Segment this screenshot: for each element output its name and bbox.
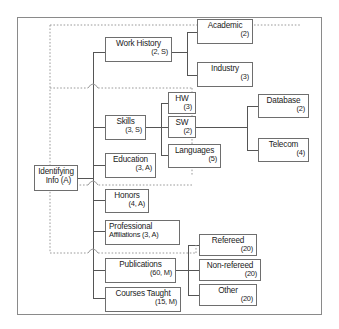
node-languages[interactable]: Languages (5) [168, 144, 221, 168]
node-courses-taught-sub: (15, M) [106, 298, 180, 306]
node-academic[interactable]: Academic (2) [197, 19, 253, 44]
node-skills[interactable]: Skills (3, S) [105, 115, 146, 140]
node-languages-sub: (5) [169, 155, 220, 163]
node-industry[interactable]: Industry (3) [197, 62, 253, 87]
node-non-refereed-sub: (20) [200, 270, 260, 278]
node-sw[interactable]: SW (2) [168, 116, 196, 138]
node-publications-sub: (60, M) [106, 269, 175, 277]
node-education[interactable]: Education (3, A) [105, 153, 156, 178]
node-other[interactable]: Other (20) [199, 284, 257, 306]
node-hw-sub: (3) [169, 103, 195, 111]
node-other-sub: (20) [200, 295, 256, 303]
node-telecom[interactable]: Telecom (4) [258, 138, 309, 162]
node-work-history[interactable]: Work History (2, S) [105, 37, 172, 62]
node-work-history-sub: (2, S) [106, 48, 171, 56]
node-telecom-sub: (4) [259, 149, 308, 157]
node-database-sub: (2) [259, 105, 308, 113]
node-honors[interactable]: Honors (4, A) [105, 189, 149, 213]
node-courses-taught[interactable]: Courses Taught (15, M) [105, 287, 181, 312]
node-hw[interactable]: HW (3) [168, 92, 196, 114]
node-industry-sub: (3) [198, 73, 252, 81]
node-academic-sub: (2) [198, 30, 252, 38]
node-publications[interactable]: Publications (60, M) [105, 258, 176, 283]
diagram-page: Identifying Info (A) Work History (2, S)… [0, 0, 339, 329]
node-professional-affiliations-sub: Affiliations (3, A) [106, 231, 179, 239]
node-education-sub: (3, A) [106, 164, 155, 172]
node-sw-sub: (2) [169, 127, 195, 135]
node-identifying-info-sub: Info (A) [35, 177, 77, 186]
node-honors-sub: (4, A) [106, 200, 148, 208]
node-database[interactable]: Database (2) [258, 94, 309, 118]
node-skills-sub: (3, S) [106, 126, 145, 134]
node-refereed-sub: (20) [200, 245, 256, 253]
node-professional-affiliations[interactable]: Professional Affiliations (3, A) [105, 220, 180, 245]
node-identifying-info[interactable]: Identifying Info (A) [34, 165, 78, 191]
node-refereed[interactable]: Refereed (20) [199, 234, 257, 256]
node-non-refereed[interactable]: Non-refereed (20) [199, 259, 261, 281]
